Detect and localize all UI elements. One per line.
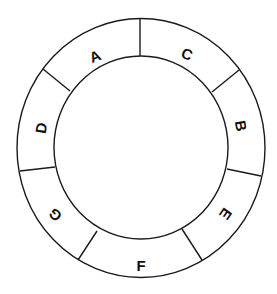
segment-divider [20, 167, 55, 171]
segment-label-c: C [179, 44, 196, 64]
segment-label-e: E [216, 205, 236, 223]
segment-divider [212, 70, 239, 92]
segment-label-a: A [87, 46, 104, 66]
segment-label-f: F [136, 257, 145, 274]
segmented-ring-diagram: ACBEFGD [0, 0, 277, 294]
segment-dividers [20, 19, 261, 260]
segment-divider [182, 229, 202, 260]
inner-ring [54, 56, 228, 239]
segment-label-b: B [232, 119, 251, 133]
segment-divider [227, 169, 261, 176]
segment-label-g: G [45, 205, 65, 225]
segment-divider [43, 69, 70, 91]
segment-label-d: D [32, 121, 51, 135]
segment-divider [78, 231, 97, 260]
